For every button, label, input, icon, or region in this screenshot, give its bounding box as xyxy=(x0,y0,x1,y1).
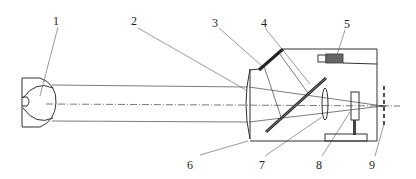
label-5: 5 xyxy=(344,17,350,31)
field-lens-7 xyxy=(322,88,328,120)
optical-diagram: 1 2 3 4 5 6 7 8 9 xyxy=(0,0,416,179)
beam-top xyxy=(52,85,248,87)
mirror-3 xyxy=(259,49,283,70)
label-2: 2 xyxy=(131,14,137,28)
detector-8 xyxy=(325,92,367,141)
beam-bottom xyxy=(52,121,248,122)
leader-lines xyxy=(40,27,384,156)
focal-plane-9 xyxy=(380,86,386,127)
label-3: 3 xyxy=(212,16,218,30)
optical-axis xyxy=(46,104,400,106)
label-1: 1 xyxy=(53,14,59,28)
label-7: 7 xyxy=(259,158,265,172)
label-9: 9 xyxy=(369,158,375,172)
component-5 xyxy=(318,54,377,64)
label-6: 6 xyxy=(187,158,193,172)
label-4: 4 xyxy=(261,16,267,30)
label-8: 8 xyxy=(316,158,322,172)
light-source xyxy=(22,78,56,127)
objective-lens xyxy=(246,69,250,139)
